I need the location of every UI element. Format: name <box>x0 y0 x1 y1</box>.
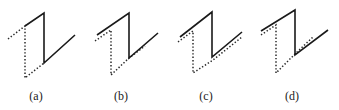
dotted-z-line <box>8 26 44 78</box>
panel-a: (a) <box>8 13 75 103</box>
panel-b: (b) <box>95 13 158 103</box>
panel-label: (c) <box>199 89 212 103</box>
dotted-z-line <box>95 30 145 75</box>
dotted-z-line <box>178 31 242 73</box>
solid-z-line <box>25 13 75 63</box>
z-shape-figure: (a) (b) (c) (d) <box>0 0 339 110</box>
dotted-z-line <box>261 25 313 73</box>
solid-z-line <box>97 13 158 58</box>
panel-label: (a) <box>29 89 42 103</box>
panel-label: (b) <box>114 89 128 103</box>
solid-z-line <box>261 10 328 55</box>
panel-label: (d) <box>285 89 299 103</box>
panel-c: (c) <box>178 12 242 103</box>
solid-z-line <box>180 12 242 57</box>
panel-d: (d) <box>261 10 328 103</box>
